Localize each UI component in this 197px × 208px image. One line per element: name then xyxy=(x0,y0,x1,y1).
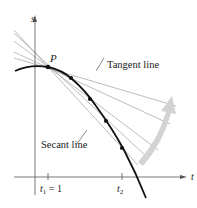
tangent-secant-diagram: s t P Tangent line Secant line t1 = 1 t2 xyxy=(0,0,197,208)
tangent-leader xyxy=(96,58,104,71)
point-q3 xyxy=(104,119,108,123)
t1-label: t1 = 1 xyxy=(40,183,62,196)
rotation-arrow-icon xyxy=(138,96,176,166)
tangent-line-label: Tangent line xyxy=(107,59,159,70)
t2-label: t2 xyxy=(117,183,124,196)
point-p-label: P xyxy=(49,52,57,64)
secant-line-label: Secant line xyxy=(41,139,88,150)
point-q1 xyxy=(69,76,73,80)
t-axis-arrow-icon xyxy=(180,175,187,179)
point-q4 xyxy=(120,146,124,150)
s-axis-label: s xyxy=(31,13,35,24)
axes xyxy=(14,15,187,195)
t-axis-label: t xyxy=(191,171,194,182)
point-q2 xyxy=(88,97,92,101)
secant-line-2 xyxy=(14,41,158,150)
point-p xyxy=(46,65,51,70)
